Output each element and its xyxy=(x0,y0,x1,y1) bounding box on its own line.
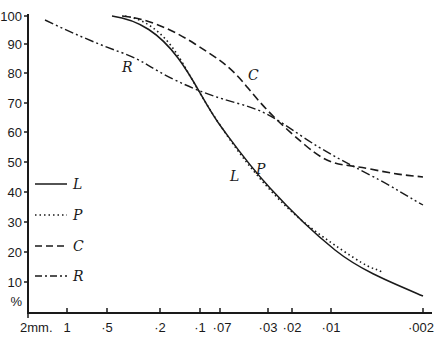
y-tick-90: 90 xyxy=(8,37,22,52)
legend-label-P: P xyxy=(72,207,83,223)
legend-labels: L P C R xyxy=(72,176,84,284)
x-tick-0.5: ·5 xyxy=(101,320,113,335)
particle-size-chart: 100 90 80 70 60 50 40 30 20 10 % 2mm. 1 … xyxy=(0,0,441,340)
series-C-line xyxy=(122,16,423,177)
x-tick-0.002: ·002 xyxy=(408,320,434,335)
annotation-C: C xyxy=(248,67,259,83)
x-tick-labels: 2mm. 1 ·5 ·2 ·1 ·07 ·03 ·02 ·01 ·002 xyxy=(20,320,434,335)
legend-label-L: L xyxy=(72,176,82,192)
x-tick-0.01: ·01 xyxy=(322,320,341,335)
x-tick-0.07: ·07 xyxy=(213,320,232,335)
x-tick-0.2: ·2 xyxy=(154,320,166,335)
y-unit-label: % xyxy=(10,294,22,309)
x-tick-0.02: ·02 xyxy=(283,320,302,335)
series-L-line xyxy=(112,16,423,296)
y-tick-labels: 100 90 80 70 60 50 40 30 20 10 % xyxy=(0,9,22,309)
y-tick-10: 10 xyxy=(8,275,22,290)
y-tick-30: 30 xyxy=(8,215,22,230)
curve-annotations: R C L P xyxy=(121,59,266,184)
x-tick-0.03: ·03 xyxy=(259,320,278,335)
annotation-P: P xyxy=(255,161,266,177)
y-tick-70: 70 xyxy=(8,96,22,111)
legend xyxy=(35,184,67,276)
x-tick-0.1: ·1 xyxy=(194,320,206,335)
x-tick-2mm: 2mm. xyxy=(20,320,53,335)
y-tick-60: 60 xyxy=(8,125,22,140)
x-tick-1: 1 xyxy=(63,320,70,335)
y-tick-40: 40 xyxy=(8,185,22,200)
legend-label-R: R xyxy=(72,268,84,284)
annotation-L: L xyxy=(229,168,239,184)
y-tick-80: 80 xyxy=(8,66,22,81)
annotation-R: R xyxy=(121,59,133,75)
y-tick-50: 50 xyxy=(8,155,22,170)
series-P-line xyxy=(125,16,382,272)
legend-label-C: C xyxy=(73,238,84,254)
y-tick-20: 20 xyxy=(8,245,22,260)
y-tick-100: 100 xyxy=(0,9,22,24)
